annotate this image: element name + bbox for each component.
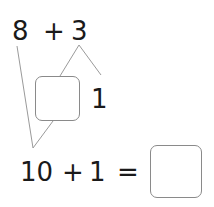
split-second-part: 1 — [91, 86, 108, 112]
bottom-right-number: 1 — [89, 159, 106, 185]
bottom-operator: + — [62, 159, 84, 185]
bond-line-8-to-10 — [17, 46, 33, 148]
bond-line-box-to-10 — [33, 121, 53, 148]
bond-line-3-to-1 — [79, 45, 101, 75]
split-answer-box[interactable] — [35, 76, 80, 121]
bond-line-3-to-box — [60, 45, 79, 76]
number-bond-diagram: 8 + 3 1 10 + 1 = — [0, 0, 214, 207]
top-operator: + — [43, 18, 65, 44]
equals-sign: = — [117, 159, 139, 185]
final-answer-box[interactable] — [150, 145, 202, 198]
bottom-left-number: 10 — [20, 159, 53, 185]
top-left-number: 8 — [12, 18, 29, 44]
top-right-number: 3 — [71, 18, 88, 44]
